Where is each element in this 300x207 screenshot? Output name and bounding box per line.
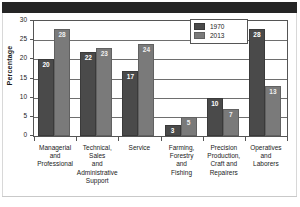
chart-page: Percentage 051015202530 2022173102828232… <box>0 0 300 207</box>
category-label-line: Forestry <box>170 152 194 159</box>
bar-1970-3: 3 <box>165 125 181 137</box>
x-category-label-3: Farming,ForestryandFishing <box>159 144 205 177</box>
legend-label-2013: 2013 <box>210 32 224 40</box>
y-tick-label: 30 <box>11 17 27 23</box>
category-label-line: Administrative <box>77 169 118 176</box>
category-label-line: Farming, <box>169 144 195 151</box>
x-tick-mark <box>245 137 246 141</box>
category-label-line: and <box>92 160 103 167</box>
x-tick-mark <box>76 137 77 141</box>
y-tick-label: 0 <box>11 132 27 138</box>
bar-value-label: 28 <box>55 31 69 39</box>
category-label-line: Sales <box>89 152 105 159</box>
bar-value-label: 24 <box>139 46 153 54</box>
category-label-line: Laborers <box>253 160 279 167</box>
category-label-line: Repairers <box>210 169 238 176</box>
x-category-label-1: Technical,SalesandAdministrativeSupport <box>74 144 120 185</box>
y-tick-label: 25 <box>11 36 27 42</box>
bar-2013-5: 13 <box>265 86 281 136</box>
category-label-line: Production, <box>207 152 240 159</box>
bar-value-label: 22 <box>81 54 95 62</box>
x-category-label-4: PrecisionProduction,Craft andRepairers <box>201 144 247 177</box>
frame-left-rule <box>2 13 3 197</box>
bar-value-label: 10 <box>208 100 222 108</box>
x-tick-mark <box>118 137 119 141</box>
x-category-label-2: Service <box>116 144 162 152</box>
category-label-line: Support <box>86 177 109 184</box>
legend-item-1970: 1970 <box>194 22 244 31</box>
category-label-line: Fishing <box>171 169 192 176</box>
y-tick-label: 5 <box>11 113 27 119</box>
bar-2013-2: 24 <box>138 44 154 136</box>
legend-swatch-1970 <box>194 23 205 30</box>
category-label-line: Precision <box>210 144 237 151</box>
category-label-line: and <box>50 152 61 159</box>
y-tick-label: 20 <box>11 55 27 61</box>
category-label-line: Operatives <box>250 144 281 151</box>
frame-right-rule <box>296 13 297 197</box>
bar-1970-2: 17 <box>122 71 138 136</box>
bar-value-label: 5 <box>182 119 196 127</box>
x-category-label-5: OperativesandLaborers <box>243 144 289 169</box>
y-axis-title: Percentage <box>6 36 13 96</box>
bar-1970-0: 20 <box>38 59 54 136</box>
bar-2013-3: 5 <box>181 117 197 136</box>
bar-value-label: 28 <box>250 31 264 39</box>
bar-2013-1: 23 <box>96 48 112 136</box>
bar-1970-1: 22 <box>80 52 96 136</box>
category-label-line: Craft and <box>210 160 237 167</box>
plot-area: 202217310282823245713 <box>33 20 288 137</box>
legend-label-1970: 1970 <box>210 23 224 31</box>
bar-2013-4: 7 <box>223 109 239 136</box>
bar-2013-0: 28 <box>54 29 70 136</box>
bar-value-label: 3 <box>166 127 180 135</box>
y-tick-label: 10 <box>11 94 27 100</box>
bar-value-label: 23 <box>97 50 111 58</box>
x-tick-mark <box>161 137 162 141</box>
x-tick-mark <box>287 137 288 141</box>
x-category-label-0: ManagerialandProfessional <box>32 144 78 169</box>
bar-value-label: 20 <box>39 61 53 69</box>
chart-legend: 1970 2013 <box>190 19 248 44</box>
y-tick-label: 15 <box>11 75 27 81</box>
x-tick-mark <box>203 137 204 141</box>
bar-value-label: 17 <box>123 73 137 81</box>
bar-1970-4: 10 <box>207 98 223 136</box>
bar-value-label: 13 <box>266 88 280 96</box>
category-label-line: and <box>260 152 271 159</box>
bar-1970-5: 28 <box>249 29 265 136</box>
legend-item-2013: 2013 <box>194 31 244 40</box>
category-label-line: Technical, <box>83 144 112 151</box>
category-label-line: and <box>176 160 187 167</box>
category-label-line: Professional <box>37 160 73 167</box>
x-tick-mark <box>34 137 35 141</box>
category-label-line: Managerial <box>39 144 71 151</box>
frame-bottom-rule <box>2 196 297 197</box>
top-header-bar <box>2 2 297 13</box>
category-label-line: Service <box>129 144 151 151</box>
bar-value-label: 7 <box>224 111 238 119</box>
legend-swatch-2013 <box>194 32 205 39</box>
